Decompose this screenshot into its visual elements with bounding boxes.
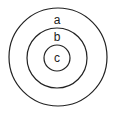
label-c: c <box>54 51 60 65</box>
label-b: b <box>54 30 61 44</box>
concentric-circles-diagram: a b c <box>0 0 113 113</box>
label-a: a <box>54 13 61 27</box>
